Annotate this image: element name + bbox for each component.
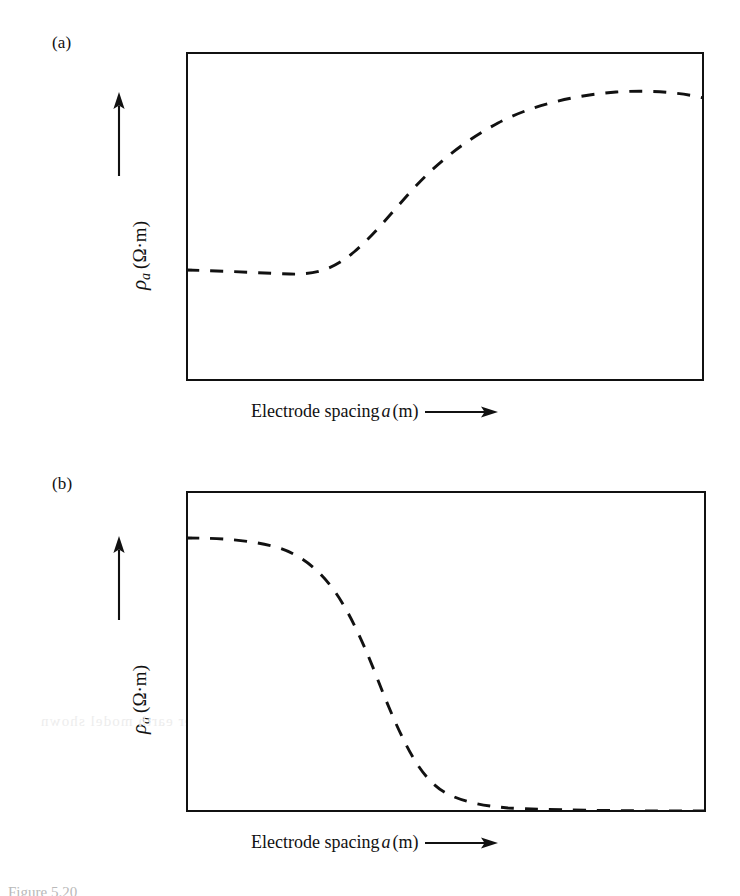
up-arrow-icon	[108, 90, 130, 176]
figure-caption-fragment: Figure 5.20	[8, 884, 248, 896]
rho-subscript: a	[138, 272, 153, 280]
panel-a-plot-box	[186, 52, 704, 381]
panel-a-x-axis: Electrode spacinga(m)	[251, 401, 499, 422]
right-arrow-icon	[425, 836, 499, 850]
figure-root: (a) ρa(Ω·m) Electrode spacinga(m)	[0, 0, 740, 896]
right-arrow-icon	[425, 405, 499, 419]
panel-a-x-axis-label: Electrode spacinga(m)	[251, 401, 418, 422]
panel-a-letter: (a)	[52, 33, 71, 53]
x-axis-variable: a	[379, 401, 392, 421]
panel-a-y-axis-label: ρa(Ω·m)	[127, 221, 154, 290]
rho-units: (Ω·m)	[129, 665, 150, 716]
rho-symbol: ρ	[127, 280, 151, 290]
panel-b-x-axis-label: Electrode spacinga(m)	[251, 832, 418, 853]
panel-b-x-axis: Electrode spacinga(m)	[251, 832, 499, 853]
panel-b-letter: (b)	[52, 474, 72, 494]
rho-units: (Ω·m)	[129, 221, 150, 272]
up-arrow-icon	[108, 534, 130, 620]
x-axis-variable: a	[379, 832, 392, 852]
x-axis-label-text: Electrode spacing	[251, 832, 379, 852]
x-axis-units: (m)	[392, 832, 418, 852]
x-axis-units: (m)	[392, 401, 418, 421]
panel-b-plot-box	[186, 491, 706, 812]
x-axis-label-text: Electrode spacing	[251, 401, 379, 421]
